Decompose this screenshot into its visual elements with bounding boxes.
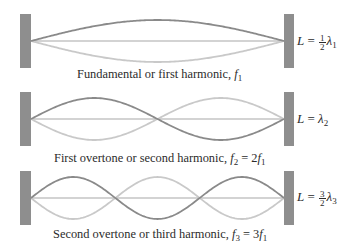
- length-symbol: L: [297, 33, 304, 48]
- wavelength-subscript: 1: [332, 40, 337, 50]
- caption-text: Fundamental or first harmonic,: [77, 67, 234, 81]
- panel-second-harmonic: [20, 92, 294, 146]
- caption-second-harmonic: First overtone or second harmonic, f2 = …: [54, 151, 265, 165]
- wave-envelope-dark: [31, 20, 284, 41]
- length-relation-2: L = λ2: [297, 111, 328, 127]
- left-fixed-end: [20, 14, 31, 68]
- frequency-subscript: 1: [238, 73, 243, 83]
- wavelength-subscript: 3: [332, 196, 337, 206]
- caption-third-harmonic: Second overtone or third harmonic, f3 = …: [53, 227, 267, 241]
- equation-multiplier: = 3: [240, 227, 259, 241]
- denominator: 2: [319, 199, 326, 207]
- wave-envelope-light: [31, 41, 284, 62]
- fraction-one-half: 1 2: [319, 34, 326, 51]
- length-symbol: L: [297, 189, 304, 204]
- equals-sign: =: [307, 111, 314, 126]
- equals-sign: =: [307, 189, 314, 204]
- left-fixed-end: [20, 92, 31, 146]
- caption-text: Second overtone or third harmonic,: [53, 227, 232, 241]
- fundamental-frequency-subscript: 1: [263, 233, 268, 243]
- length-relation-3: L = 3 2 λ3: [297, 189, 337, 207]
- fundamental-frequency-subscript: 1: [261, 157, 266, 167]
- wavelength-subscript: 2: [324, 118, 329, 128]
- length-symbol: L: [297, 111, 304, 126]
- left-fixed-end: [20, 171, 31, 225]
- panel-first-harmonic: [20, 14, 294, 68]
- fraction-three-halves: 3 2: [319, 190, 326, 207]
- equation-multiplier: = 2: [238, 151, 257, 165]
- length-relation-1: L = 1 2 λ1: [297, 33, 337, 51]
- right-fixed-end: [284, 92, 294, 146]
- right-fixed-end: [284, 171, 294, 225]
- denominator: 2: [319, 43, 326, 51]
- right-fixed-end: [284, 14, 294, 68]
- caption-text: First overtone or second harmonic,: [54, 151, 230, 165]
- panel-third-harmonic: [20, 171, 294, 225]
- equals-sign: =: [307, 33, 314, 48]
- caption-first-harmonic: Fundamental or first harmonic, f1: [77, 67, 242, 81]
